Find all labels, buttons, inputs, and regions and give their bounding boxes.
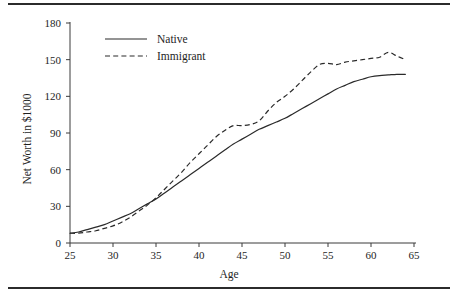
series-line-immigrant (70, 52, 405, 233)
x-tick-label: 25 (65, 250, 76, 261)
legend-swatch-dashed-line-icon (104, 51, 148, 61)
x-tick-label: 65 (409, 250, 420, 261)
x-tick-label: 50 (280, 250, 291, 261)
x-axis-title: Age (0, 268, 458, 280)
x-tick-label: 30 (108, 250, 119, 261)
legend-label-native: Native (148, 33, 188, 45)
x-tick-label: 60 (366, 250, 377, 261)
y-axis-title: Net Worth in $1000 (21, 49, 33, 229)
x-tick-label: 40 (194, 250, 205, 261)
x-tick-label: 35 (151, 250, 162, 261)
legend-label-immigrant: Immigrant (148, 50, 206, 62)
chart-legend: Native Immigrant (104, 30, 244, 64)
legend-swatch-solid-line-icon (104, 34, 148, 44)
legend-item-native: Native (104, 30, 244, 47)
legend-item-immigrant: Immigrant (104, 47, 244, 64)
figure-container: 0306090120150180 253035404550556065 Net … (0, 0, 458, 297)
y-tick-label: 180 (28, 18, 61, 29)
series-line-native (70, 74, 405, 233)
y-tick-label: 0 (28, 238, 61, 249)
chart-plot-area: 0306090120150180 253035404550556065 Net … (0, 0, 458, 297)
x-tick-label: 55 (323, 250, 334, 261)
x-tick-label: 45 (237, 250, 248, 261)
